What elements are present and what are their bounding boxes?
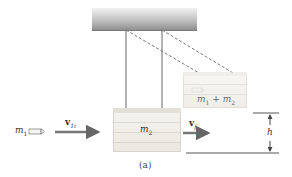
height-label: h: [267, 127, 273, 137]
combined-mass-label: m1 + m2: [197, 94, 235, 106]
dashed-string-right: [162, 30, 233, 73]
combined-block: m1 + m2: [183, 72, 247, 108]
pendulum-block: m2: [113, 108, 181, 152]
bullet-mass-label: m1: [15, 125, 27, 137]
final-velocity-label: vf: [189, 118, 196, 130]
initial-velocity-label: v1i: [65, 117, 76, 129]
bullet-icon: [29, 129, 44, 134]
figure-caption: (a): [139, 160, 151, 170]
block-mass-label: m2: [140, 124, 152, 136]
